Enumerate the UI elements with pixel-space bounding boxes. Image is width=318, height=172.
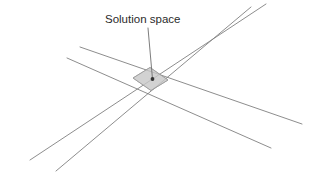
solution-space-label: Solution space [105, 13, 180, 25]
annotation-target-dot [151, 77, 155, 81]
diagram-canvas: Solution space [0, 0, 318, 172]
solution-space-diagram: Solution space [0, 0, 318, 172]
solution-space-region-outline [133, 68, 168, 91]
